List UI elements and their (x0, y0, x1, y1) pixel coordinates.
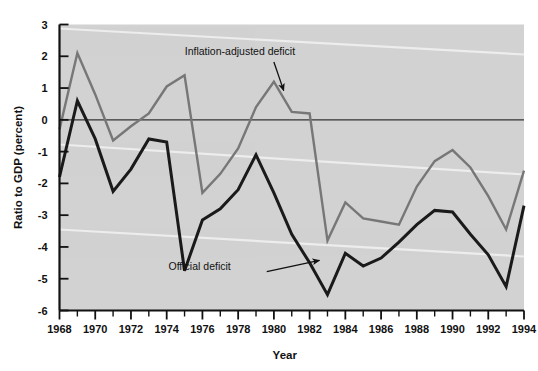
y-axis-title: Ratio to GDP (percent) (12, 106, 24, 229)
x-axis-title: Year (273, 349, 298, 361)
annotation-inflation-adjusted-deficit-label: Inflation-adjusted deficit (185, 45, 295, 57)
y-tick-label: -4 (38, 241, 49, 253)
x-tick-label: 1976 (190, 323, 214, 335)
y-tick-label: 0 (41, 114, 47, 126)
x-tick-label: 1984 (333, 323, 358, 335)
x-tick-label: 1990 (440, 323, 464, 335)
x-tick-label: 1988 (405, 323, 429, 335)
x-tick-label: 1968 (47, 323, 71, 335)
x-tick-label: 1986 (369, 323, 393, 335)
annotation-official-deficit-label: Official deficit (168, 260, 230, 272)
x-tick-label: 1994 (512, 323, 537, 335)
y-tick-label: -5 (38, 273, 48, 285)
chart-figure: 3210-1-2-3-4-5-6 19681970197219741976197… (0, 0, 538, 371)
y-tick-label: -6 (38, 305, 48, 317)
y-tick-label: 3 (41, 19, 47, 31)
x-tick-label: 1982 (297, 323, 321, 335)
y-tick-label: -3 (38, 209, 48, 221)
x-tick-label: 1974 (154, 323, 179, 335)
y-tick-label: -1 (38, 146, 48, 158)
deficit-ratio-to-gdp-line-chart: 3210-1-2-3-4-5-6 19681970197219741976197… (0, 0, 538, 371)
y-tick-label: 2 (41, 50, 47, 62)
y-tick-label: 1 (41, 82, 47, 94)
x-tick-label: 1980 (262, 323, 286, 335)
x-tick-label: 1970 (83, 323, 107, 335)
x-tick-label: 1972 (119, 323, 143, 335)
y-tick-label: -2 (38, 177, 48, 189)
x-tick-label: 1978 (226, 323, 250, 335)
x-tick-label: 1992 (476, 323, 500, 335)
plot-area-background (60, 25, 525, 311)
